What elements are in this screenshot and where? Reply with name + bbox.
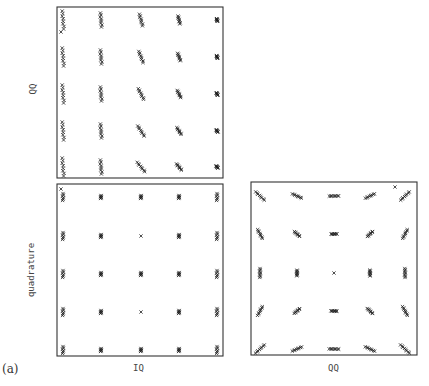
- panel-top-left: [57, 7, 223, 178]
- panel-bottom-left-points: [59, 187, 219, 355]
- figure-canvas: [0, 0, 429, 386]
- panel-bottom-right: [251, 182, 417, 355]
- xlabel-bottom-right: QQ: [328, 363, 339, 373]
- xlabel-bottom-left: IQ: [133, 363, 144, 373]
- panel-bottom-right-points: [254, 185, 411, 354]
- ylabel-top-left: QQ: [28, 84, 38, 95]
- figure-tag: (a): [2, 362, 19, 376]
- panel-bottom-left: [57, 184, 223, 356]
- ylabel-bottom-left: quadrature: [26, 243, 36, 297]
- panel-top-left-points: [59, 9, 219, 177]
